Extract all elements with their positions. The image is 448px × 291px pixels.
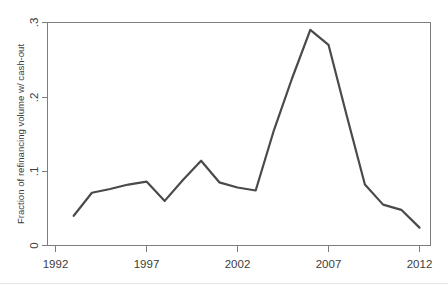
x-tick-label: 2012	[407, 258, 433, 270]
chart-figure: .3 .2 .1 0 Fraction of refinancing volum…	[0, 0, 448, 291]
x-tick-label: 1992	[43, 258, 69, 270]
y-tick-marks	[42, 23, 48, 246]
y-axis-title: Fraction of refinancing volume w/ cash-o…	[15, 44, 26, 225]
x-tick-labels: 1992 1997 2002 2007 2012	[43, 258, 433, 270]
y-tick-labels: .3 .2 .1 0	[28, 18, 40, 249]
y-tick-label: .3	[28, 18, 40, 28]
plot-frame	[48, 23, 431, 246]
x-tick-label: 1997	[134, 258, 160, 270]
footer-divider	[0, 283, 448, 284]
x-tick-label: 2002	[225, 258, 251, 270]
x-tick-marks	[56, 246, 420, 252]
data-series-line	[74, 30, 420, 228]
line-chart: .3 .2 .1 0 Fraction of refinancing volum…	[0, 0, 448, 291]
x-tick-label: 2007	[316, 258, 342, 270]
y-tick-label: .1	[28, 167, 40, 177]
y-tick-label: .2	[28, 93, 40, 103]
y-tick-label: 0	[28, 242, 40, 248]
